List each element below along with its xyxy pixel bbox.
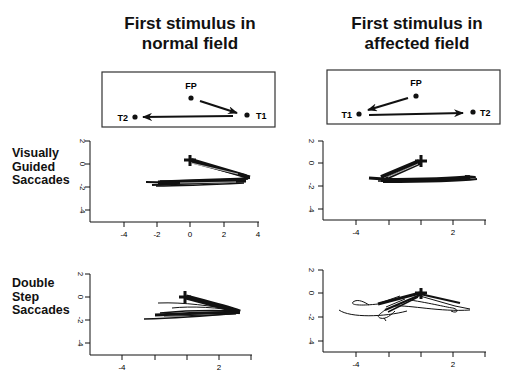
svg-text:2: 2 [307,268,316,273]
svg-text:-4: -4 [352,360,360,369]
saccade-traces [369,161,477,182]
arrow-t1-to-t2 [143,116,233,117]
plot-visually-guided-normal: 2 0 -2 -4 -4 -2 0 2 4 [78,139,261,239]
svg-text:2: 2 [78,139,87,144]
start-cross-marker [184,155,196,166]
svg-text:2: 2 [451,360,456,369]
tick-labels: 2 0 -2 -4 -4 2 [307,139,456,237]
arrow-fp-to-t1 [368,98,408,110]
schematic-normal-field: FP T1 T2 [102,72,275,127]
svg-text:-4: -4 [352,228,360,237]
svg-text:-4: -4 [118,363,126,372]
svg-text:2: 2 [307,139,316,144]
svg-text:-2: -2 [153,230,161,239]
t2-label: T2 [117,113,128,123]
svg-text:-4: -4 [307,205,316,213]
target-1-dot [356,111,361,116]
svg-text:2: 2 [222,230,227,239]
svg-text:-4: -4 [307,337,316,345]
target-2-dot [470,109,475,114]
start-cross-marker [179,291,191,303]
saccade-traces [339,293,470,321]
plot-double-step-normal: 2 0 -2 -4 -4 2 [76,272,252,372]
svg-text:-2: -2 [76,316,85,324]
arrow-fp-to-t1 [200,101,237,113]
t1-label: T1 [341,110,352,120]
fixation-point-dot [188,95,193,100]
svg-text:0: 0 [307,161,316,166]
tick-labels: 2 0 -2 -4 -4 2 [76,272,222,372]
plot-double-step-affected: 2 0 -2 -4 -4 2 [307,268,486,369]
svg-text:4: 4 [256,230,261,239]
plot-visually-guided-affected: 2 0 -2 -4 -4 2 [307,139,486,237]
t1-label: T1 [256,111,267,121]
svg-text:-4: -4 [78,206,87,214]
svg-text:2: 2 [76,272,85,277]
figure-canvas: FP T1 T2 FP T1 T2 2 0 -2 [0,0,512,384]
svg-text:-2: -2 [307,313,316,321]
fp-label: FP [185,81,197,91]
saccade-traces [144,297,240,319]
fp-label: FP [410,78,422,88]
t2-label: T2 [480,108,491,118]
svg-text:-4: -4 [76,339,85,347]
svg-text:-4: -4 [120,230,128,239]
svg-text:-2: -2 [307,182,316,190]
axes [318,141,486,225]
tick-labels: 2 0 -2 -4 -4 -2 0 2 4 [78,139,261,239]
svg-text:0: 0 [76,295,85,300]
svg-text:0: 0 [78,162,87,167]
svg-text:2: 2 [217,363,222,372]
fixation-point-dot [413,93,418,98]
target-2-dot [132,114,137,119]
arrow-t1-to-t2 [369,113,463,115]
axes [318,270,486,357]
target-1-dot [244,112,249,117]
svg-text:0: 0 [188,230,193,239]
svg-text:2: 2 [451,228,456,237]
axes [85,274,252,360]
schematic-affected-field: FP T1 T2 [327,70,500,124]
svg-text:0: 0 [307,291,316,296]
saccade-traces [146,160,250,186]
svg-text:-2: -2 [78,183,87,191]
